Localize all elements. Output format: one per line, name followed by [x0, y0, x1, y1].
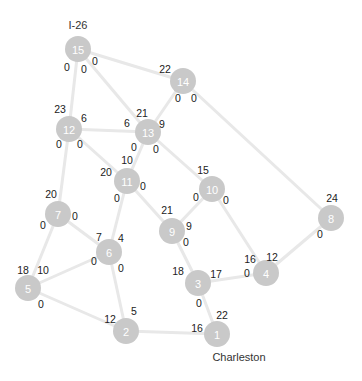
edge-2-1 — [126, 331, 217, 334]
edge-weight-label: 0 — [81, 63, 87, 75]
node-10[interactable]: 10 — [199, 176, 225, 202]
edge-weight-label: 12 — [104, 313, 116, 325]
node-id-label: 14 — [177, 76, 189, 88]
node-14[interactable]: 14 — [170, 68, 196, 94]
node-id-label: 1 — [214, 329, 220, 341]
node-9[interactable]: 9 — [159, 218, 185, 244]
node-15[interactable]: 15 — [65, 36, 91, 62]
edge-weight-label: 0 — [64, 61, 70, 73]
network-graph: 123456789101112131415 000220023600216900… — [0, 0, 362, 381]
edge-weight-label: 17 — [210, 268, 222, 280]
edge-label-layer: 0002200236002169001020015002402000219007… — [17, 55, 338, 334]
node-11[interactable]: 11 — [114, 168, 140, 194]
edge-weight-label: 0 — [92, 55, 98, 67]
edge-weight-label: 16 — [191, 322, 203, 334]
edge-weight-label: 0 — [91, 255, 97, 267]
edge-weight-label: 0 — [131, 141, 137, 153]
edge-weight-label: 7 — [96, 231, 102, 243]
edge-15-13 — [78, 49, 148, 132]
node-id-label: 15 — [72, 44, 84, 56]
node-id-label: 8 — [328, 213, 334, 225]
edge-weight-label: 0 — [191, 92, 197, 104]
node-id-label: 9 — [169, 226, 175, 238]
node-id-label: 13 — [142, 127, 154, 139]
edge-weight-label: 18 — [172, 265, 184, 277]
edge-weight-label: 0 — [40, 219, 46, 231]
node-id-label: 5 — [25, 283, 31, 295]
edge-weight-label: 20 — [100, 166, 112, 178]
node-id-label: 3 — [195, 278, 201, 290]
edge-weight-label: 22 — [159, 63, 171, 75]
edge-weight-label: 0 — [193, 191, 199, 203]
node-4[interactable]: 4 — [253, 260, 279, 286]
edge-weight-label: 16 — [244, 253, 256, 265]
edge-weight-label: 0 — [196, 297, 202, 309]
edge-weight-label: 0 — [183, 236, 189, 248]
node-7[interactable]: 7 — [45, 201, 71, 227]
place-label: I-26 — [69, 19, 88, 31]
edge-weight-label: 0 — [140, 180, 146, 192]
edge-weight-label: 0 — [118, 262, 124, 274]
edge-weight-label: 10 — [121, 154, 133, 166]
edge-weight-label: 23 — [54, 103, 66, 115]
place-label: Charleston — [212, 351, 265, 363]
edge-weight-label: 0 — [175, 92, 181, 104]
edge-weight-label: 6 — [81, 112, 87, 124]
edge-weight-label: 5 — [131, 305, 137, 317]
node-id-label: 6 — [106, 247, 112, 259]
node-id-label: 11 — [121, 176, 132, 188]
node-id-label: 12 — [63, 124, 75, 136]
node-id-label: 10 — [206, 184, 218, 196]
edge-weight-label: 0 — [114, 192, 120, 204]
node-id-label: 2 — [123, 326, 129, 338]
edge-weight-label: 12 — [266, 251, 278, 263]
edge-weight-label: 0 — [72, 210, 78, 222]
node-2[interactable]: 2 — [113, 318, 139, 344]
node-13[interactable]: 13 — [135, 119, 161, 145]
edge-weight-label: 15 — [197, 164, 209, 176]
edge-weight-label: 0 — [153, 143, 159, 155]
edge-weight-label: 9 — [186, 220, 192, 232]
edge-weight-label: 10 — [37, 264, 49, 276]
edge-weight-label: 0 — [38, 298, 44, 310]
edge-weight-label: 18 — [17, 264, 29, 276]
node-1[interactable]: 1 — [204, 321, 230, 347]
edge-weight-label: 20 — [45, 188, 57, 200]
edge-weight-label: 9 — [159, 118, 165, 130]
edge-10-4 — [212, 189, 266, 273]
node-3[interactable]: 3 — [185, 270, 211, 296]
edge-weight-label: 21 — [136, 107, 148, 119]
edge-weight-label: 6 — [124, 117, 130, 129]
edge-weight-label: 24 — [326, 192, 338, 204]
node-layer: 123456789101112131415 — [15, 36, 344, 347]
edge-weight-label: 21 — [161, 204, 173, 216]
edge-weight-label: 22 — [216, 309, 228, 321]
edge-weight-label: 0 — [317, 228, 323, 240]
edge-weight-label: 0 — [244, 267, 250, 279]
edge-weight-label: 4 — [118, 232, 124, 244]
node-id-label: 7 — [55, 209, 61, 221]
edge-weight-label: 0 — [56, 138, 62, 150]
edge-weight-label: 0 — [77, 138, 83, 150]
node-id-label: 4 — [263, 268, 269, 280]
edge-weight-label: 0 — [223, 194, 229, 206]
